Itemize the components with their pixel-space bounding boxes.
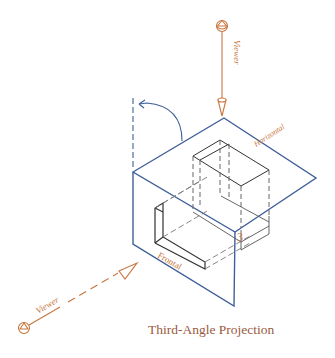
projection-diagram: Viewer Horizontal 3 xyxy=(0,0,335,358)
viewer-left xyxy=(19,263,138,334)
arrow-head-left xyxy=(119,263,137,279)
frontal-plane-label: Frontal xyxy=(156,250,184,272)
viewer-label-top: Viewer xyxy=(232,40,242,65)
rotation-arc xyxy=(133,98,182,170)
viewer-top xyxy=(217,21,228,117)
horizontal-plane xyxy=(133,118,316,232)
figure-caption: Third-Angle Projection xyxy=(148,322,274,338)
object-base xyxy=(193,196,269,250)
viewer-label-left: Viewer xyxy=(34,294,61,315)
horizontal-plane-label: Horizontal xyxy=(251,122,286,149)
